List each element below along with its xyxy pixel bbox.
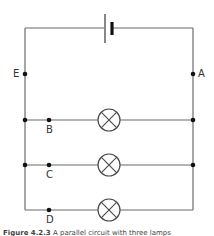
junction-dot: [23, 163, 28, 168]
node-e: [23, 72, 28, 77]
circuit-diagram: [0, 0, 214, 236]
label-a: A: [198, 69, 205, 79]
label-d: D: [46, 215, 54, 225]
battery-cell-icon: [105, 14, 112, 43]
junction-dot: [191, 163, 196, 168]
node-b: [47, 118, 52, 123]
node-d: [47, 208, 52, 213]
lamp-icon: [98, 154, 120, 176]
label-e: E: [13, 69, 19, 79]
node-c: [47, 163, 52, 168]
figure-caption: Figure 4.2.3 A parallel circuit with thr…: [3, 229, 213, 236]
lamp-icon: [98, 109, 120, 131]
caption-prefix: Figure 4.2.3: [3, 229, 51, 236]
junction-dot: [23, 118, 28, 123]
lamp-icon: [98, 199, 120, 221]
node-a: [191, 72, 196, 77]
label-c: C: [46, 170, 53, 180]
label-b: B: [46, 125, 53, 135]
junction-dot: [191, 118, 196, 123]
caption-text: A parallel circuit with three lamps: [51, 229, 171, 236]
